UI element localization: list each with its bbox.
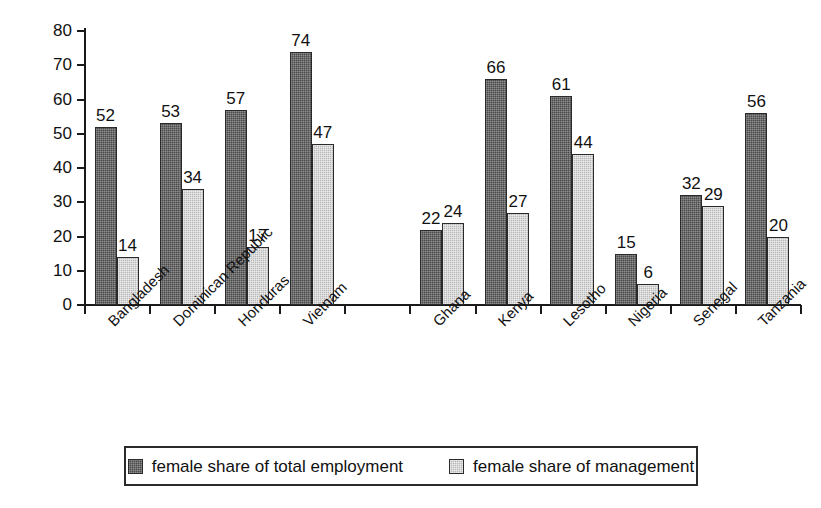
y-tick-label-20: 20 xyxy=(42,228,72,245)
x-tick-2 xyxy=(214,305,216,314)
bar-value-label: 14 xyxy=(113,237,143,254)
legend-entry-0: female share of total employment xyxy=(128,458,403,475)
bar-value-label: 15 xyxy=(611,234,641,251)
y-tick-label-30: 30 xyxy=(42,193,72,210)
bar-lesotho-series1 xyxy=(572,154,594,305)
legend: female share of total employmentfemale s… xyxy=(124,446,698,486)
x-tick-9 xyxy=(670,305,672,314)
bar-value-label: 61 xyxy=(546,76,576,93)
bar-value-label: 34 xyxy=(178,169,208,186)
y-tick-label-0: 0 xyxy=(42,296,72,313)
bar-ghana-series0 xyxy=(420,230,442,305)
x-tick-7 xyxy=(540,305,542,314)
x-tick-11 xyxy=(800,305,802,314)
bar-vietnam-series1 xyxy=(312,144,334,305)
y-tick-label-80: 80 xyxy=(42,22,72,39)
x-tick-6 xyxy=(475,305,477,314)
y-tick-label-70: 70 xyxy=(42,56,72,73)
bar-value-label: 44 xyxy=(568,134,598,151)
legend-swatch-icon-0 xyxy=(128,459,143,474)
y-tick-label-10: 10 xyxy=(42,262,72,279)
bar-tanzania-series0 xyxy=(745,113,767,305)
bar-bangladesh-series0 xyxy=(95,127,117,305)
bar-value-label: 57 xyxy=(221,90,251,107)
bar-value-label: 56 xyxy=(741,93,771,110)
x-tick-3 xyxy=(279,305,281,314)
plot-area: 521453345717744722246627614415632295620 xyxy=(84,31,800,305)
bar-value-label: 24 xyxy=(438,203,468,220)
bar-value-label: 47 xyxy=(308,124,338,141)
y-tick-label-60: 60 xyxy=(42,91,72,108)
legend-label: female share of management xyxy=(473,458,694,475)
bar-value-label: 20 xyxy=(763,217,793,234)
bar-value-label: 52 xyxy=(91,107,121,124)
x-tick-4 xyxy=(344,305,346,314)
y-tick-label-40: 40 xyxy=(42,159,72,176)
y-tick-label-50: 50 xyxy=(42,125,72,142)
bar-value-label: 6 xyxy=(633,264,663,281)
x-tick-0 xyxy=(84,305,86,314)
legend-label: female share of total employment xyxy=(152,458,403,475)
x-tick-5 xyxy=(409,305,411,314)
bar-value-label: 53 xyxy=(156,103,186,120)
bar-value-label: 29 xyxy=(698,186,728,203)
x-tick-10 xyxy=(735,305,737,314)
legend-entry-1: female share of management xyxy=(449,458,694,475)
bar-value-label: 27 xyxy=(503,193,533,210)
bar-vietnam-series0 xyxy=(290,52,312,305)
bar-value-label: 66 xyxy=(481,59,511,76)
bar-value-label: 74 xyxy=(286,32,316,49)
bar-lesotho-series0 xyxy=(550,96,572,305)
x-tick-1 xyxy=(149,305,151,314)
bar-senegal-series0 xyxy=(680,195,702,305)
legend-swatch-icon-1 xyxy=(449,459,464,474)
x-tick-8 xyxy=(605,305,607,314)
bar-chart: percent 01020304050607080 52145334571774… xyxy=(0,0,821,508)
